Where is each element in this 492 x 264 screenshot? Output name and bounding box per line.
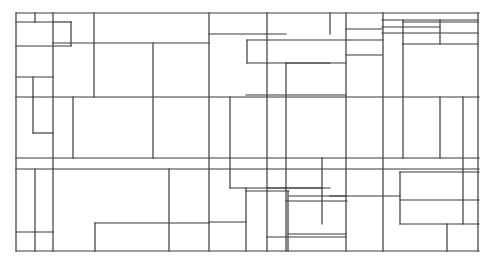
rectangle-partition-drawing bbox=[0, 0, 492, 264]
vertical-lines bbox=[16, 13, 478, 251]
